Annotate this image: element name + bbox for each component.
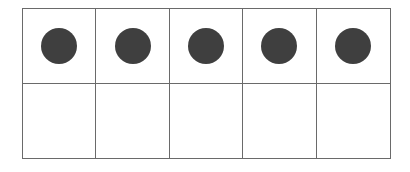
counter-dot-icon xyxy=(115,28,151,64)
frame-cell xyxy=(317,9,390,84)
frame-cell xyxy=(317,84,390,159)
frame-cell xyxy=(23,9,96,84)
counter-dot-icon xyxy=(41,28,77,64)
frame-cell xyxy=(96,9,169,84)
frame-cell xyxy=(170,84,243,159)
frame-cell xyxy=(23,84,96,159)
counter-dot-icon xyxy=(188,28,224,64)
frame-cell xyxy=(243,84,316,159)
frame-cell xyxy=(170,9,243,84)
counter-dot-icon xyxy=(261,28,297,64)
counter-dot-icon xyxy=(335,28,371,64)
ten-frame xyxy=(22,8,391,159)
frame-cell xyxy=(96,84,169,159)
frame-cell xyxy=(243,9,316,84)
